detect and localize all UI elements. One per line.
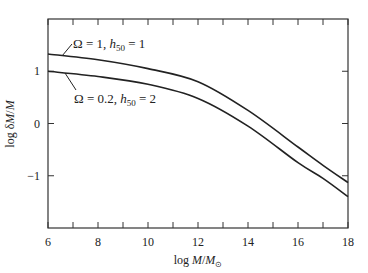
x-tick-label: 18	[342, 235, 354, 249]
y-axis-label: log δM/M	[3, 99, 17, 147]
x-axis-label: log M/M⊙	[174, 253, 223, 269]
y-ticks: −101	[27, 64, 348, 183]
y-tick-label: 0	[34, 117, 40, 131]
series-line-1	[48, 54, 348, 183]
x-tick-label: 8	[95, 235, 101, 249]
annotation-series-2: Ω = 0.2, h50 = 2	[74, 91, 156, 108]
y-tick-label: 1	[34, 64, 40, 78]
x-tick-label: 6	[45, 235, 51, 249]
y-tick-label: −1	[27, 169, 40, 183]
annotation-leader-1	[62, 44, 72, 56]
x-tick-label: 14	[242, 235, 254, 249]
x-tick-label: 16	[292, 235, 304, 249]
annotation-leader-2	[65, 73, 76, 90]
annotation-series-1: Ω = 1, h50 = 1	[73, 36, 145, 53]
series-lines	[48, 54, 348, 197]
x-ticks: 681012141618	[45, 19, 354, 249]
chart: 681012141618 −101 log M/M⊙ log δM/M Ω = …	[0, 0, 368, 273]
x-tick-label: 10	[142, 235, 154, 249]
x-tick-label: 12	[192, 235, 204, 249]
